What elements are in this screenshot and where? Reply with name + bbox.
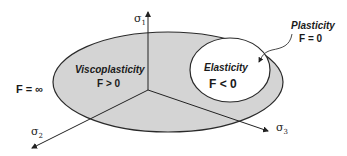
elasticity-condition: F < 0: [209, 77, 237, 91]
sigma2-label: σ2: [31, 125, 43, 140]
plasticity-condition: F = 0: [299, 33, 322, 44]
sigma1-label: σ1: [134, 12, 146, 27]
viscoplasticity-condition: F > 0: [97, 78, 120, 89]
sigma3-label: σ3: [276, 121, 288, 136]
elasticity-title: Elasticity: [204, 62, 248, 73]
viscoplasticity-title: Viscoplasticity: [75, 64, 145, 75]
outside-condition: F = ∞: [16, 83, 43, 95]
plasticity-title: Plasticity: [291, 20, 335, 31]
